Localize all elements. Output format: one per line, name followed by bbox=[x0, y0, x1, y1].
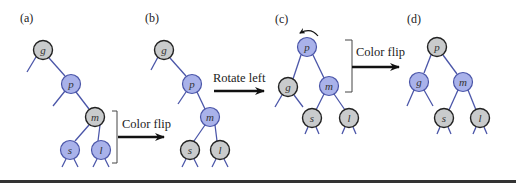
edge bbox=[334, 94, 345, 110]
svg-text:s: s bbox=[310, 112, 314, 124]
svg-text:m: m bbox=[325, 80, 333, 92]
transition-label: Rotate left bbox=[213, 71, 266, 85]
node-s: s bbox=[435, 109, 454, 128]
panel-a: (a) g p m s l bbox=[20, 11, 111, 167]
panel-d: (d) p g m s l bbox=[407, 12, 490, 134]
svg-text:p: p bbox=[188, 78, 195, 90]
edge bbox=[342, 127, 345, 134]
edge bbox=[93, 159, 97, 167]
bottom-rule bbox=[0, 180, 516, 183]
node-s: s bbox=[181, 141, 200, 160]
panel-label-b: (b) bbox=[145, 11, 159, 25]
edge bbox=[49, 58, 65, 76]
node-s: s bbox=[303, 109, 322, 128]
edge bbox=[212, 159, 216, 167]
edge bbox=[316, 127, 319, 134]
panel-b: (b) g p m s l bbox=[145, 11, 230, 167]
node-p: p bbox=[428, 38, 447, 57]
edge bbox=[215, 125, 217, 141]
panel-label-d: (d) bbox=[407, 12, 421, 26]
svg-text:g: g bbox=[40, 44, 46, 56]
rotate-arrow-icon bbox=[300, 31, 318, 36]
edge bbox=[424, 90, 433, 106]
edge bbox=[76, 92, 89, 109]
bracket bbox=[112, 111, 117, 163]
panel-label-c: (c) bbox=[275, 12, 288, 26]
node-g: g bbox=[279, 78, 298, 97]
node-p: p bbox=[298, 38, 317, 57]
edge bbox=[105, 159, 109, 167]
svg-text:m: m bbox=[459, 76, 467, 88]
edge bbox=[448, 127, 451, 134]
svg-text:s: s bbox=[68, 144, 72, 156]
transition-color-flip-2: Color flip bbox=[345, 40, 405, 92]
edge bbox=[468, 90, 476, 110]
edge bbox=[75, 125, 89, 141]
transition-label: Color flip bbox=[122, 117, 171, 131]
svg-text:s: s bbox=[442, 112, 446, 124]
transition-rotate-left: Rotate left bbox=[213, 71, 266, 91]
node-l: l bbox=[211, 141, 230, 160]
svg-text:p: p bbox=[433, 41, 440, 53]
edge bbox=[294, 95, 303, 107]
svg-text:l: l bbox=[478, 112, 481, 124]
edge bbox=[182, 159, 186, 167]
edge bbox=[98, 125, 100, 141]
red-black-tree-diagram: (a) g p m s l bbox=[0, 0, 516, 183]
edge bbox=[293, 55, 301, 79]
node-m: m bbox=[320, 77, 339, 96]
svg-text:l: l bbox=[347, 112, 350, 124]
edge bbox=[484, 127, 487, 134]
transition-color-flip-1: Color flip bbox=[112, 111, 171, 163]
node-l: l bbox=[92, 141, 111, 160]
node-p: p bbox=[62, 75, 81, 94]
svg-text:g: g bbox=[416, 76, 422, 88]
svg-text:p: p bbox=[67, 78, 74, 90]
edge bbox=[424, 55, 431, 73]
svg-text:m: m bbox=[206, 111, 214, 123]
node-g: g bbox=[410, 73, 429, 92]
edge bbox=[194, 159, 198, 167]
svg-text:l: l bbox=[99, 144, 102, 156]
edge bbox=[443, 55, 457, 74]
edge bbox=[313, 55, 324, 78]
edge bbox=[178, 92, 186, 104]
edge bbox=[53, 91, 65, 106]
edge bbox=[316, 94, 324, 110]
edge bbox=[27, 57, 36, 72]
svg-text:g: g bbox=[161, 44, 167, 56]
edge bbox=[170, 58, 186, 76]
edge bbox=[74, 159, 78, 167]
svg-text:g: g bbox=[285, 81, 291, 93]
panel-c: (c) p g m s l bbox=[275, 12, 359, 134]
edge bbox=[473, 127, 476, 134]
svg-text:s: s bbox=[188, 144, 192, 156]
node-m: m bbox=[86, 108, 105, 127]
edge bbox=[224, 159, 228, 167]
node-l: l bbox=[340, 109, 359, 128]
transition-label: Color flip bbox=[356, 45, 405, 59]
edge bbox=[305, 127, 308, 134]
node-s: s bbox=[61, 141, 80, 160]
node-g: g bbox=[34, 41, 53, 60]
node-l: l bbox=[471, 109, 490, 128]
svg-text:m: m bbox=[91, 111, 99, 123]
node-m: m bbox=[454, 73, 473, 92]
edge bbox=[62, 159, 66, 167]
edge bbox=[197, 92, 205, 109]
svg-text:p: p bbox=[303, 41, 310, 53]
node-g: g bbox=[155, 41, 174, 60]
edge bbox=[275, 95, 282, 107]
node-m: m bbox=[201, 108, 220, 127]
edge bbox=[151, 57, 158, 70]
panel-label-a: (a) bbox=[20, 11, 33, 25]
node-p: p bbox=[183, 75, 202, 94]
edge bbox=[449, 90, 458, 110]
edge bbox=[353, 127, 356, 134]
edge bbox=[407, 90, 414, 106]
svg-text:l: l bbox=[218, 144, 221, 156]
edge bbox=[437, 127, 440, 134]
edge bbox=[194, 125, 205, 141]
bracket bbox=[345, 40, 352, 92]
